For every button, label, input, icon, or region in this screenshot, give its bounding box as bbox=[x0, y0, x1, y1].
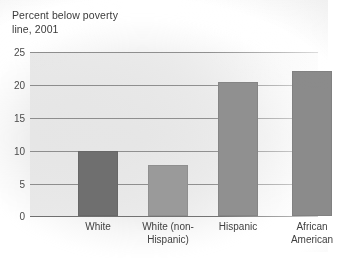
chart-title: Percent below poverty line, 2001 bbox=[12, 8, 118, 36]
bar-white-non-hispanic bbox=[148, 165, 188, 216]
gridline-10 bbox=[30, 151, 318, 152]
x-axis-label-white-non-hispanic: White (non- Hispanic) bbox=[128, 221, 208, 246]
y-axis-label-25: 25 bbox=[14, 47, 25, 58]
x-axis-line bbox=[30, 216, 318, 217]
y-axis-label-15: 15 bbox=[14, 113, 25, 124]
x-axis-label-hispanic: Hispanic bbox=[198, 221, 278, 234]
gridline-20 bbox=[30, 85, 318, 86]
gridline-25 bbox=[30, 52, 318, 53]
y-axis-label-20: 20 bbox=[14, 80, 25, 91]
bar-hispanic bbox=[218, 82, 258, 216]
bar-african-american bbox=[292, 71, 332, 216]
x-axis-label-white: White bbox=[58, 221, 138, 234]
y-axis-label-5: 5 bbox=[19, 179, 25, 190]
plot-area: 25 20 15 10 5 0 White White (non- Hispan… bbox=[30, 52, 318, 217]
x-axis-label-african-american: African American bbox=[272, 221, 337, 246]
y-axis-label-10: 10 bbox=[14, 146, 25, 157]
bar-white bbox=[78, 151, 118, 216]
y-axis-label-0: 0 bbox=[19, 211, 25, 222]
gridline-15 bbox=[30, 118, 318, 119]
